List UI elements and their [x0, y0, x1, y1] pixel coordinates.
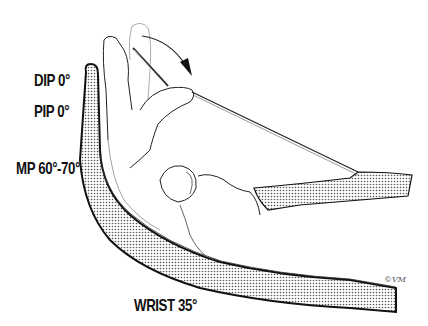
rotation-arrow-icon — [142, 36, 192, 76]
forearm-cuff — [254, 172, 412, 210]
label-dip: DIP 0° — [34, 72, 70, 89]
label-pip: PIP 0° — [34, 103, 69, 120]
splint-illustration: DIP 0° PIP 0° MP 60°-70° WRIST 35° ©VM — [0, 0, 428, 326]
artist-signature: ©VM — [384, 275, 406, 284]
outrigger-line — [192, 92, 358, 175]
label-wrist: WRIST 35° — [134, 297, 197, 314]
label-mp: MP 60°-70° — [16, 160, 80, 177]
